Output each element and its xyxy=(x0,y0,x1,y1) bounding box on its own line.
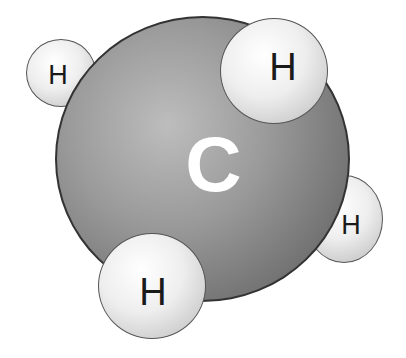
hydrogen-label: H xyxy=(139,273,166,311)
hydrogen-atom-bottom: H xyxy=(98,233,206,339)
carbon-label: C xyxy=(185,125,241,203)
hydrogen-label: H xyxy=(341,212,361,239)
methane-diagram: H H C H H xyxy=(0,0,406,358)
hydrogen-atom-top-right: H xyxy=(220,18,328,124)
hydrogen-label: H xyxy=(48,62,68,89)
hydrogen-label: H xyxy=(269,48,296,86)
